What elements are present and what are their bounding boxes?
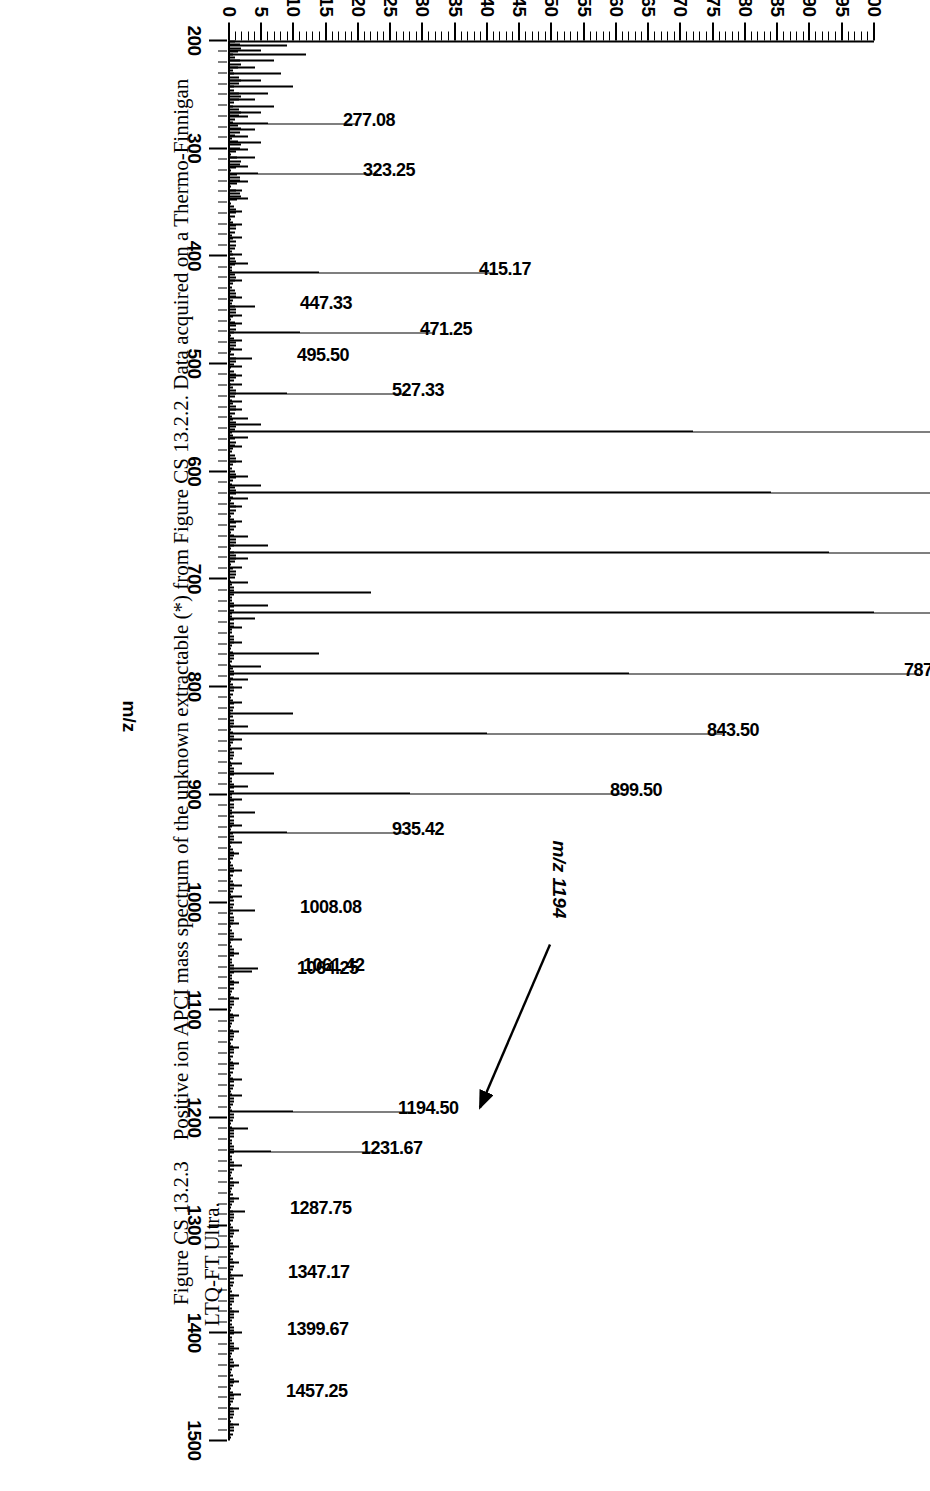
figure-caption: Figure CS 13.2.3 Positive ion APCI mass … <box>136 56 258 1326</box>
figure-page: 2003004005006007008009001000110012001300… <box>0 0 930 1491</box>
caption-label: Figure CS 13.2.3 <box>170 1161 194 1305</box>
caption-text: Positive ion APCI mass spectrum of the u… <box>170 73 224 1325</box>
mz-1194-callout-label: m/z 1194 <box>548 840 570 918</box>
